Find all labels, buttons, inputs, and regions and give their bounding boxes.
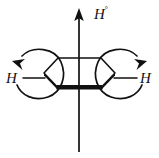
ring-bond-lower-left-bold — [44, 72, 57, 89]
label-hydrogen-top-superscript: ° — [105, 5, 108, 14]
label-hydrogen-right: H — [140, 71, 151, 86]
left-rotation-arrow — [12, 49, 63, 98]
label-hydrogen-top: H° — [94, 7, 108, 22]
label-hydrogen-top-text: H — [94, 6, 105, 22]
ring-bond-lower-right-bold — [102, 72, 115, 89]
left-rotation-arrowhead — [12, 59, 25, 70]
label-hydrogen-left: H — [6, 71, 17, 86]
bold-front-bond — [57, 85, 103, 90]
right-rotation-arc — [96, 49, 142, 98]
axial-up-arrow — [74, 8, 84, 85]
chemical-structure-figure: H° H H — [0, 0, 159, 158]
right-rotation-arrowhead — [134, 59, 147, 70]
left-rotation-arc — [17, 49, 63, 98]
ring-bond-upper-right — [101, 58, 115, 73]
structure-drawing — [0, 0, 159, 158]
ring-bond-upper-left — [44, 58, 58, 73]
